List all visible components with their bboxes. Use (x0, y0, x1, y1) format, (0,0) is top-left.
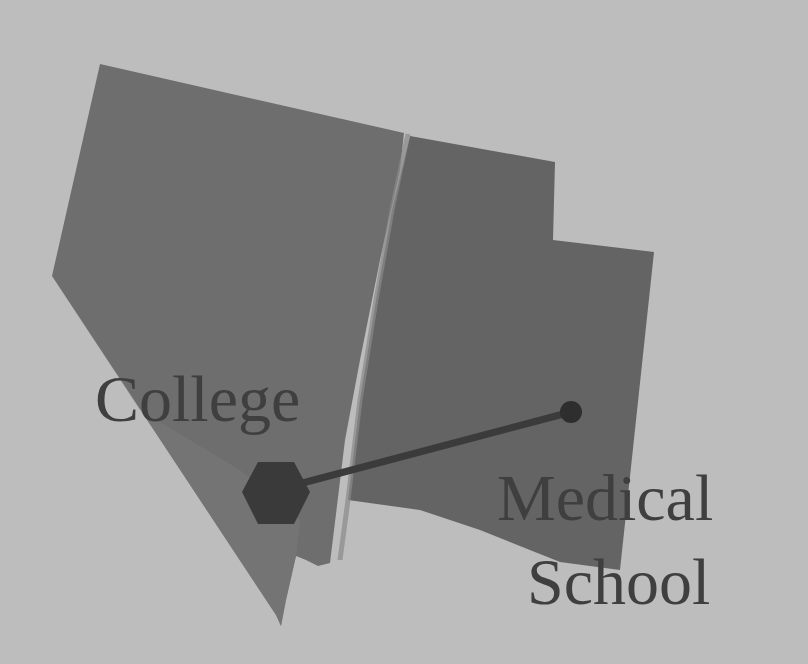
medical-school-label-line1: Medical (497, 456, 713, 540)
medical-school-label-line2: School (497, 540, 713, 624)
college-label: College (95, 366, 300, 432)
medical-school-label: Medical School (497, 456, 713, 624)
medical-school-dot-icon (560, 401, 582, 423)
